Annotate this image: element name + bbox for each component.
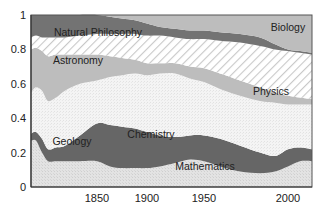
label-mathematics: Mathematics [175, 160, 235, 172]
x-tick-label: 1950 [192, 192, 216, 204]
plot-areas [31, 15, 312, 187]
y-tick-label: 0.8 [11, 43, 26, 55]
label-biology: Biology [271, 21, 306, 33]
x-tick-label: 1900 [135, 192, 159, 204]
y-tick-label: 0.6 [11, 78, 26, 90]
y-tick-label: 0 [20, 181, 26, 193]
x-tick-label: 2000 [276, 192, 300, 204]
label-chemistry: Chemistry [127, 128, 175, 140]
y-tick-label: 0.2 [11, 147, 26, 159]
y-tick-label: 1 [20, 9, 26, 21]
y-tick-label: 0.4 [11, 112, 26, 124]
y-axis-ticks: 00.20.40.60.81 [11, 9, 26, 193]
x-axis-ticks: 1850190019502000 [85, 192, 300, 204]
label-natural-philosophy: Natural Philosophy [54, 26, 143, 38]
label-geology: Geology [52, 135, 92, 147]
x-tick-label: 1850 [85, 192, 109, 204]
label-physics: Physics [253, 85, 289, 97]
stacked-area-chart: MathematicsGeologyChemistryAstronomyPhys… [0, 0, 324, 212]
label-astronomy: Astronomy [53, 54, 104, 66]
